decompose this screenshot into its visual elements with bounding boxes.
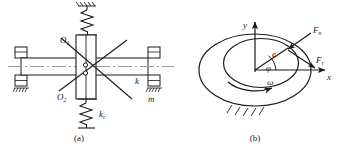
label-axis-x: x (326, 72, 331, 82)
label-axis-y: y (242, 20, 247, 30)
caption-panel-a: (a) (74, 133, 84, 143)
center-point-o2 (83, 71, 87, 75)
label-attitude-angle-phi: φ (266, 63, 271, 73)
label-mass-m: m (148, 94, 155, 104)
caption-panel-b: (b) (250, 133, 261, 143)
figure-root: O1 O2 k m kc (a) (0, 0, 346, 151)
label-angular-velocity-omega: ω (267, 77, 273, 87)
label-eccentricity-e: e (272, 49, 276, 59)
center-point-o1 (83, 63, 87, 67)
